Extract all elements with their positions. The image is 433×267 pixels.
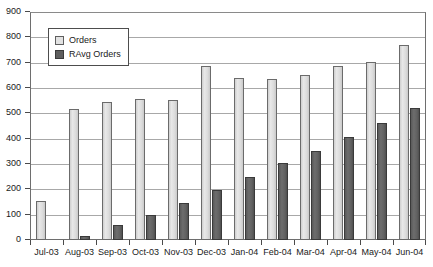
bar-ravg-orders <box>113 225 123 240</box>
bar-orders <box>300 75 310 240</box>
bar-ravg-orders <box>344 137 354 240</box>
bar-ravg-orders <box>377 123 387 240</box>
x-tick-mark <box>30 240 31 245</box>
y-tick-label: 600 <box>6 83 21 92</box>
x-tick-mark <box>162 240 163 245</box>
bar-orders <box>267 79 277 240</box>
y-tick-label: 100 <box>6 210 21 219</box>
bar-ravg-orders <box>212 190 222 240</box>
x-tick-mark <box>393 240 394 245</box>
legend-swatch-icon <box>55 36 64 45</box>
legend-item: Orders <box>55 33 121 47</box>
x-axis-ticks <box>30 240 426 246</box>
x-tick-label: Jun-04 <box>393 247 426 258</box>
y-tick-label: 400 <box>6 134 21 143</box>
x-tick-label: Feb-04 <box>261 247 294 258</box>
bar-orders <box>366 62 376 240</box>
bar-ravg-orders <box>245 177 255 240</box>
x-tick-label: Jul-03 <box>30 247 63 258</box>
x-tick-label: Mar-04 <box>294 247 327 258</box>
bar-orders <box>102 102 112 240</box>
bar-orders <box>36 201 46 240</box>
bar-chart: 0100200300400500600700800900 Jul-03Aug-0… <box>0 0 433 267</box>
bar-ravg-orders <box>410 108 420 240</box>
y-tick-label: 800 <box>6 32 21 41</box>
x-tick-mark <box>360 240 361 245</box>
x-tick-label: Sep-03 <box>96 247 129 258</box>
y-tick-label: 900 <box>6 7 21 16</box>
bar-orders <box>399 45 409 240</box>
bar-group <box>135 12 156 240</box>
bar-group <box>234 12 255 240</box>
bar-ravg-orders <box>311 151 321 240</box>
bar-group <box>168 12 189 240</box>
x-tick-mark <box>129 240 130 245</box>
x-tick-mark <box>327 240 328 245</box>
bar-group <box>333 12 354 240</box>
y-tick-label: 0 <box>16 235 21 244</box>
x-tick-mark <box>425 240 426 245</box>
legend-label: Orders <box>69 35 97 45</box>
legend-swatch-icon <box>55 50 64 59</box>
bar-orders <box>201 66 211 240</box>
y-tick-label: 700 <box>6 58 21 67</box>
x-tick-label: Oct-03 <box>129 247 162 258</box>
legend-label: RAvg Orders <box>69 49 121 59</box>
x-tick-mark <box>228 240 229 245</box>
chart-legend: OrdersRAvg Orders <box>48 28 129 66</box>
bar-group <box>366 12 387 240</box>
x-tick-label: Apr-04 <box>327 247 360 258</box>
bar-group <box>267 12 288 240</box>
y-tick-label: 300 <box>6 159 21 168</box>
bar-group <box>201 12 222 240</box>
legend-item: RAvg Orders <box>55 47 121 61</box>
x-tick-label: May-04 <box>360 247 393 258</box>
bar-orders <box>135 99 145 240</box>
bar-ravg-orders <box>278 163 288 240</box>
bar-ravg-orders <box>179 203 189 240</box>
bar-orders <box>168 100 178 240</box>
x-tick-label: Nov-03 <box>162 247 195 258</box>
bar-orders <box>69 109 79 240</box>
bar-group <box>300 12 321 240</box>
x-tick-mark <box>195 240 196 245</box>
bar-ravg-orders <box>146 215 156 240</box>
x-axis: Jul-03Aug-03Sep-03Oct-03Nov-03Dec-03Jan-… <box>30 247 426 263</box>
x-tick-mark <box>261 240 262 245</box>
y-axis: 0100200300400500600700800900 <box>0 0 30 267</box>
x-tick-mark <box>294 240 295 245</box>
x-tick-label: Dec-03 <box>195 247 228 258</box>
bar-orders <box>234 78 244 240</box>
bar-orders <box>333 66 343 240</box>
x-tick-label: Aug-03 <box>63 247 96 258</box>
x-tick-label: Jan-04 <box>228 247 261 258</box>
y-tick-label: 500 <box>6 108 21 117</box>
x-tick-mark <box>63 240 64 245</box>
y-tick-label: 200 <box>6 184 21 193</box>
bar-group <box>399 12 420 240</box>
x-tick-mark <box>96 240 97 245</box>
